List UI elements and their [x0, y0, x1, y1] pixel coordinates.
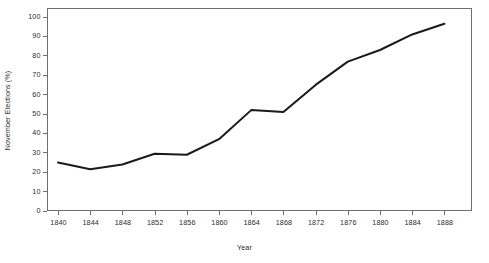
y-tick: 90: [32, 31, 47, 41]
x-tick-mark: [283, 211, 284, 215]
x-tick-mark: [380, 211, 381, 215]
y-tick: 80: [32, 51, 47, 61]
x-tick: 1848: [122, 211, 123, 227]
x-tick-mark: [348, 211, 349, 215]
y-tick: 40: [32, 128, 47, 138]
y-tick: 100: [28, 12, 47, 22]
x-tick: 1864: [251, 211, 252, 227]
x-tick-mark: [251, 211, 252, 215]
y-tick-label: 20: [32, 167, 40, 177]
x-tick: 1844: [90, 211, 91, 227]
y-axis-title: November Elections (%): [2, 50, 14, 170]
y-tick: 50: [32, 109, 47, 119]
y-tick-label: 100: [28, 12, 40, 22]
y-tick-label: 90: [32, 31, 40, 41]
x-tick: 1880: [380, 211, 381, 227]
x-tick-label: 1872: [308, 218, 324, 227]
x-tick-label: 1876: [340, 218, 356, 227]
x-tick: 1860: [219, 211, 220, 227]
x-tick-mark: [58, 211, 59, 215]
y-tick: 30: [32, 148, 47, 158]
y-tick-label: 40: [32, 128, 40, 138]
chart-screenshot: 0102030405060708090100 November Election…: [0, 0, 489, 263]
y-tick-label: 30: [32, 148, 40, 158]
x-tick-mark: [316, 211, 317, 215]
x-tick-label: 1840: [50, 218, 66, 227]
x-tick: 1852: [155, 211, 156, 227]
y-tick-label: 50: [32, 109, 40, 119]
x-tick-mark: [187, 211, 188, 215]
x-tick-mark: [412, 211, 413, 215]
x-tick: 1872: [316, 211, 317, 227]
x-tick: 1876: [348, 211, 349, 227]
x-tick-label: 1868: [276, 218, 292, 227]
x-tick: 1868: [283, 211, 284, 227]
y-tick-label: 70: [32, 70, 40, 80]
y-tick-label: 60: [32, 90, 40, 100]
x-tick-label: 1844: [83, 218, 99, 227]
y-tick: 70: [32, 70, 47, 80]
y-tick-label: 80: [32, 51, 40, 61]
data-series-line: [58, 24, 444, 170]
y-tick: 60: [32, 90, 47, 100]
x-tick-label: 1852: [147, 218, 163, 227]
x-axis: Year 18401844184818521856186018641868187…: [0, 211, 489, 263]
x-tick: 1884: [412, 211, 413, 227]
y-tick: 10: [32, 187, 47, 197]
x-tick: 1840: [58, 211, 59, 227]
x-tick: 1856: [187, 211, 188, 227]
x-tick-label: 1860: [211, 218, 227, 227]
x-tick: 1888: [444, 211, 445, 227]
x-tick-label: 1856: [179, 218, 195, 227]
x-tick-mark: [155, 211, 156, 215]
y-tick-label: 10: [32, 187, 40, 197]
x-tick-mark: [219, 211, 220, 215]
x-tick-label: 1864: [244, 218, 260, 227]
x-tick-label: 1848: [115, 218, 131, 227]
plot-area: [47, 8, 472, 211]
line-chart-figure: 0102030405060708090100 November Election…: [0, 0, 489, 263]
x-tick-label: 1880: [372, 218, 388, 227]
y-tick: 20: [32, 167, 47, 177]
y-axis-title-label: November Elections (%): [4, 70, 13, 150]
x-tick-mark: [444, 211, 445, 215]
x-tick-mark: [90, 211, 91, 215]
x-tick-label: 1884: [405, 218, 421, 227]
x-axis-title: Year: [0, 243, 489, 252]
x-tick-label: 1888: [437, 218, 453, 227]
x-tick-mark: [122, 211, 123, 215]
